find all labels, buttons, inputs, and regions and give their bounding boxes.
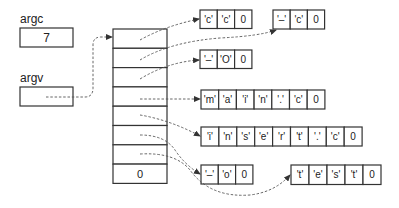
- argv-memory-diagram: argc 7 argv 0 'c' 'c' 0 '–' 'c' 0: [0, 0, 399, 208]
- svg-text:'i': 'i': [207, 131, 213, 142]
- svg-text:'c': 'c': [221, 14, 230, 25]
- svg-text:0: 0: [350, 131, 356, 142]
- pointer-cell: [113, 48, 167, 67]
- pointer-cell: [113, 68, 167, 87]
- svg-text:'o': 'o': [222, 169, 231, 180]
- svg-text:'c': 'c': [294, 94, 303, 105]
- argv-label: argv: [20, 71, 43, 85]
- svg-text:'e': 'e': [259, 131, 268, 142]
- svg-text:'n': 'n': [223, 131, 232, 142]
- pointer-cell: [113, 29, 167, 48]
- argv-box: [20, 87, 73, 106]
- svg-text:0: 0: [240, 54, 246, 65]
- string-test: 't' 'e' 's' 't' 0: [291, 165, 381, 185]
- pointer-array: 0: [113, 29, 167, 183]
- string-dash-O: '–' 'O' 0: [200, 50, 252, 69]
- svg-text:'n': 'n': [258, 94, 267, 105]
- string-insert-c: 'i' 'n' 's' 'e' 'r' 't' '.' 'c' 0: [201, 127, 362, 146]
- svg-text:'s': 's': [241, 131, 250, 142]
- svg-text:'e': 'e': [313, 169, 322, 180]
- svg-text:0: 0: [313, 14, 319, 25]
- svg-text:0: 0: [313, 94, 319, 105]
- svg-text:'–': '–': [205, 169, 214, 180]
- svg-text:'t': 't': [296, 131, 303, 142]
- svg-text:'c': 'c': [331, 131, 340, 142]
- svg-text:0: 0: [369, 169, 375, 180]
- svg-text:'.': '.': [277, 94, 284, 105]
- svg-text:'i': 'i': [242, 94, 248, 105]
- pointer-cell: [113, 87, 167, 106]
- string-cc: 'c' 'c' 0: [200, 10, 252, 29]
- svg-text:'c': 'c': [294, 14, 303, 25]
- svg-text:'.': '.': [314, 131, 321, 142]
- string-main-c: 'm' 'a' 'i' 'n' '.' 'c' 0: [201, 90, 325, 109]
- svg-text:'m': 'm': [204, 94, 216, 105]
- svg-text:'t': 't': [297, 169, 304, 180]
- svg-text:0: 0: [240, 14, 246, 25]
- argc-label: argc: [20, 12, 43, 26]
- svg-text:'s': 's': [332, 169, 341, 180]
- argc-value: 7: [43, 31, 50, 45]
- svg-text:'O': 'O': [220, 54, 232, 65]
- pointer-cell: [113, 106, 167, 125]
- svg-text:'a': 'a': [223, 94, 232, 105]
- null-terminator: 0: [137, 168, 143, 180]
- svg-text:'r': 'r': [278, 131, 285, 142]
- svg-text:'t': 't': [351, 169, 358, 180]
- svg-text:0: 0: [241, 169, 247, 180]
- svg-text:'–': '–': [277, 14, 286, 25]
- string-dash-c: '–' 'c' 0: [273, 10, 325, 29]
- svg-text:'–': '–': [204, 54, 213, 65]
- string-dash-o: '–' 'o' 0: [201, 165, 253, 184]
- svg-text:'c': 'c': [204, 14, 213, 25]
